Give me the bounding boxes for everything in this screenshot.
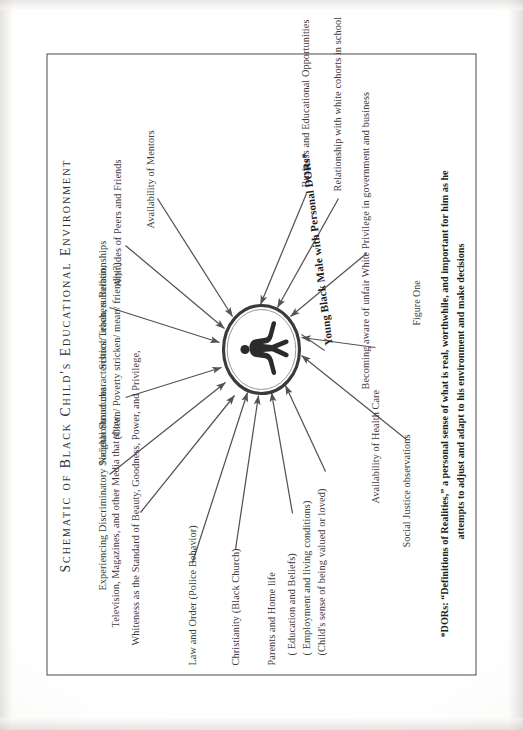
label-peers-friends: Attitudes of Peers and Friends — [111, 159, 123, 286]
label-mentors: Availability of Mentors — [144, 130, 156, 228]
scan-edge-right — [507, 0, 523, 730]
label-social-justice: Availability of Health Care — [369, 389, 381, 503]
label-christianity: Christianity (Black Church) — [229, 548, 241, 665]
scan-edge-bottom — [0, 718, 523, 730]
figure-caption: Figure One — [410, 280, 421, 325]
scanned-page: Schematic of Black Child's Educational E… — [0, 0, 523, 730]
label-parents-home: Parents and Home life — [265, 572, 277, 665]
label-childs-sense: (Child's sense of being valued or loved) — [315, 488, 327, 655]
scan-edge-top — [0, 0, 523, 10]
scan-edge-left — [0, 0, 14, 730]
label-school-teachers: School/Teachers Relationships — [96, 240, 108, 369]
label-media-line2: Whiteness as the Standard of Beauty, Goo… — [129, 350, 141, 645]
rotated-figure-canvas: Schematic of Black Child's Educational E… — [39, 45, 484, 685]
label-white-cohorts: Relationship with white cohorts in schoo… — [331, 16, 343, 191]
footnote-line-2: attempts to adjust and adapt to his envi… — [454, 243, 465, 539]
footnote-line-1: *DORs: “Definitions of Realities,” a per… — [438, 170, 449, 637]
label-employment-living: ( Employment and living conditions) — [300, 500, 312, 655]
label-neighborhood-line2: (Clean/ Poverty stricken/ mean/ friendly… — [110, 262, 122, 439]
diagram-canvas: Schematic of Black Child's Educational E… — [39, 45, 484, 685]
label-education-beliefs: ( Education and Beliefs) — [285, 553, 297, 655]
label-health-care: Social Justice observations — [400, 434, 412, 547]
label-white-privilege: Becoming aware of unfair White Privilege… — [359, 91, 371, 389]
label-law-order: Law and Order (Police Behavior) — [186, 525, 198, 665]
label-media-line1: Television, Magazines, and other Media t… — [109, 416, 121, 627]
